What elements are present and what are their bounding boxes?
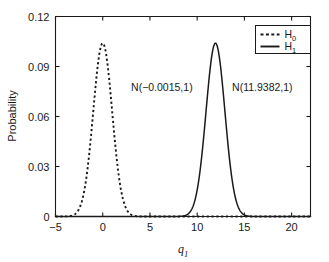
x-tick-label: 5 xyxy=(147,221,153,233)
probability-distribution-chart: −505101520 00.030.060.090.12 N(−0.0015,1… xyxy=(0,0,329,262)
y-tick-label: 0 xyxy=(43,211,49,223)
y-tick-label: 0.09 xyxy=(28,61,49,73)
chart-figure: −505101520 00.030.060.090.12 N(−0.0015,1… xyxy=(0,0,329,262)
y-tick-label: 0.12 xyxy=(28,11,49,23)
x-tick-label: −5 xyxy=(49,221,62,233)
y-tick-label: 0.06 xyxy=(28,111,49,123)
legend-box[interactable] xyxy=(256,26,311,54)
x-tick-label: 15 xyxy=(238,221,250,233)
annotation-H1: N(11.9382,1) xyxy=(232,81,293,93)
y-tick-label: 0.03 xyxy=(28,161,49,173)
legend[interactable]: H0H1 xyxy=(256,26,311,56)
y-axis-label: Probability xyxy=(6,90,18,142)
x-tick-label: 0 xyxy=(100,221,106,233)
x-tick-label: 20 xyxy=(285,221,297,233)
annotation-H0: N(−0.0015,1) xyxy=(131,81,193,93)
x-tick-label: 10 xyxy=(191,221,203,233)
